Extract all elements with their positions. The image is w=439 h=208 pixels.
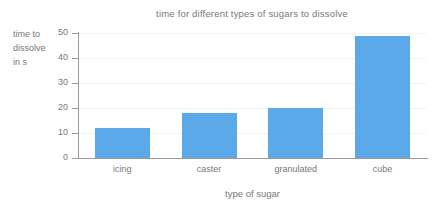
x-axis-title: type of sugar — [79, 188, 426, 199]
y-axis-tick-label: 10 — [46, 127, 68, 137]
y-axis-tick-label: 0 — [46, 152, 68, 162]
x-axis-category-label: granulated — [251, 164, 341, 174]
x-axis-category-label: caster — [164, 164, 254, 174]
bar — [268, 108, 323, 158]
x-axis-line — [78, 158, 428, 159]
x-axis-category-label: icing — [77, 164, 167, 174]
y-axis-tick-label: 30 — [46, 77, 68, 87]
bar — [355, 36, 410, 159]
x-axis-category-label: cube — [338, 164, 428, 174]
bar-chart: time for different types of sugars to di… — [0, 0, 439, 208]
y-axis-tick-label: 20 — [46, 102, 68, 112]
plot-area — [79, 33, 426, 158]
bar — [95, 128, 150, 158]
y-axis-tick-label: 50 — [46, 27, 68, 37]
y-axis-tick-label: 40 — [46, 52, 68, 62]
bar — [182, 113, 237, 158]
chart-title: time for different types of sugars to di… — [78, 8, 426, 19]
